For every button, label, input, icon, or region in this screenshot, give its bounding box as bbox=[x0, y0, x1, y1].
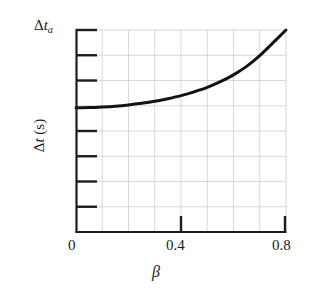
x-axis-ticks bbox=[181, 216, 285, 232]
y-axis-title: Δt (s) bbox=[32, 81, 47, 191]
y-title-delta-glyph: Δ bbox=[31, 143, 47, 153]
y-axis-ticks bbox=[76, 30, 97, 207]
y-axis-top-tick-label: Δta bbox=[34, 18, 53, 35]
x-tick-label-0: 0 bbox=[68, 238, 76, 253]
x-tick-label-0.4: 0.4 bbox=[166, 238, 185, 253]
y-title-t-glyph: t bbox=[31, 138, 47, 142]
x-tick-label-0.8: 0.8 bbox=[272, 238, 291, 253]
x-axis-title: β bbox=[0, 264, 312, 280]
delta-glyph: Δ bbox=[34, 17, 44, 33]
figure-container: Δta Δt (s) 0 0.4 0.8 β bbox=[0, 0, 312, 295]
subscript-a-glyph: a bbox=[48, 24, 53, 35]
plot-canvas bbox=[0, 0, 312, 295]
y-title-unit: (s) bbox=[31, 119, 47, 139]
